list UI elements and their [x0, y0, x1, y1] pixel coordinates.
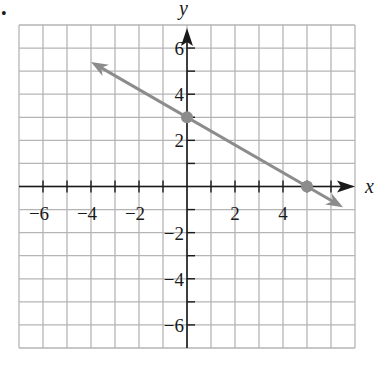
x-axis-label: x: [364, 175, 374, 197]
y-tick-label: 2: [175, 130, 185, 151]
x-tick-label: 4: [278, 203, 288, 224]
coordinate-plane-figure: −6−4−224642−2−4−6 • x y: [0, 0, 387, 373]
y-tick-label: 6: [175, 38, 185, 59]
line-arrow-end-icon: [325, 193, 343, 207]
x-tick-label: −2: [125, 203, 145, 224]
data-point: [301, 181, 313, 193]
x-tick-label: −6: [29, 203, 49, 224]
y-tick-label: −6: [164, 315, 184, 336]
graph-canvas: −6−4−224642−2−4−6 • x y: [0, 0, 387, 373]
problem-bullet: •: [1, 5, 7, 22]
line-arrow-start-icon: [91, 62, 109, 76]
y-tick-label: −4: [164, 269, 185, 290]
line-graph: [98, 66, 336, 203]
x-tick-label: 2: [230, 203, 240, 224]
y-tick-label: 4: [175, 84, 185, 105]
x-tick-label: −4: [77, 203, 98, 224]
y-tick-label: −2: [164, 223, 184, 244]
data-point: [181, 111, 193, 123]
y-axis-label: y: [177, 0, 188, 20]
